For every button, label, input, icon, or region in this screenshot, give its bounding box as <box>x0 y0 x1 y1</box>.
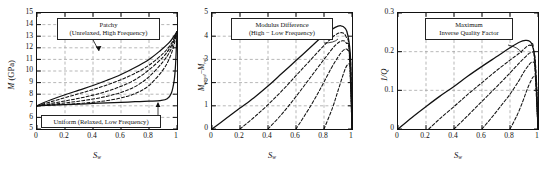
y-tick-label: 4 <box>188 31 208 40</box>
x-tick-label: 0.2 <box>413 131 437 140</box>
panel2-x-axis-label: Sw <box>252 150 292 160</box>
y-tick-label: 5 <box>13 123 33 132</box>
curve-2 <box>429 44 538 129</box>
modulus-difference-line2: (High − Low Frequency) <box>235 29 329 37</box>
panel1-x-axis-label: Sw <box>77 150 117 160</box>
y-tick-label: 0.2 <box>374 46 394 55</box>
y-tick-label: 0.3 <box>374 7 394 16</box>
y-tick-label: 10 <box>13 65 33 74</box>
y-tick-label: 0.1 <box>374 85 394 94</box>
curve-5 <box>37 32 177 106</box>
y-tick-label: 15 <box>13 7 33 16</box>
x-tick-label: 0.6 <box>469 131 493 140</box>
y-tick-label: 13 <box>13 31 33 40</box>
curve-6 <box>37 32 177 106</box>
x-tick-label: 0.8 <box>136 131 160 140</box>
curve-3 <box>37 32 177 106</box>
patchy-annotation-line2: (Unrelaxed, High Frequency) <box>61 29 156 37</box>
y-tick-label: 9 <box>13 77 33 86</box>
y-tick-label: 6 <box>13 112 33 121</box>
uniform-annotation: Uniform (Relaxed, Low Frequency) <box>41 115 161 128</box>
y-tick-label: 14 <box>13 19 33 28</box>
x-tick-label: 0.4 <box>255 131 279 140</box>
y-tick-label: 3 <box>188 54 208 63</box>
y-tick-label: 1 <box>188 100 208 109</box>
x-tick-label: 0.8 <box>497 131 521 140</box>
y-tick-label: 8 <box>13 89 33 98</box>
modulus-difference-annotation: Modulus Difference (High − Low Frequency… <box>231 18 333 40</box>
y-tick-label: 2 <box>188 77 208 86</box>
panel3-x-axis-label: Sw <box>438 150 478 160</box>
x-tick-label: 0.8 <box>311 131 335 140</box>
panel-inverse-quality: 1/Q Sw Maximum Inverse Quality Factor 00… <box>370 0 551 172</box>
x-tick-label: 0.4 <box>441 131 465 140</box>
max-inverse-quality-annotation: Maximum Inverse Quality Factor <box>425 18 513 40</box>
x-tick-label: 1 <box>525 131 549 140</box>
x-tick-label: 0.6 <box>283 131 307 140</box>
x-tick-label: 0.2 <box>52 131 76 140</box>
uniform-annotation-line1: Uniform (Relaxed, Low Frequency) <box>45 118 157 126</box>
y-tick-label: 12 <box>13 42 33 51</box>
max-iq-line1: Maximum <box>429 21 509 29</box>
y-tick-label: 5 <box>188 7 208 16</box>
curve-5 <box>510 76 538 129</box>
y-tick-label: 7 <box>13 100 33 109</box>
y-tick-label: 11 <box>13 54 33 63</box>
curve-2 <box>37 32 177 106</box>
panel-modulus: M (GPa) Sw Patchy (Unrelaxed, High Frequ… <box>0 0 185 172</box>
y-tick-label: 0 <box>374 123 394 132</box>
y-tick-label: 0 <box>188 123 208 132</box>
modulus-difference-line1: Modulus Difference <box>235 21 329 29</box>
patchy-annotation: Patchy (Unrelaxed, High Frequency) <box>57 18 160 40</box>
uniform-leader-arrowhead <box>156 102 161 107</box>
max-iq-line2: Inverse Quality Factor <box>429 29 509 37</box>
rock-physics-figure: M (GPa) Sw Patchy (Unrelaxed, High Frequ… <box>0 0 551 172</box>
curve-5 <box>324 64 352 129</box>
x-tick-label: 0.6 <box>108 131 132 140</box>
panel-modulus-difference: Munrel−Mrel Sw Modulus Difference (High … <box>185 0 370 172</box>
curve-4 <box>37 32 177 106</box>
x-tick-label: 0.2 <box>227 131 251 140</box>
curve-1 <box>37 32 177 106</box>
patchy-leader-arrowhead <box>96 46 102 51</box>
patchy-annotation-line1: Patchy <box>61 21 156 29</box>
x-tick-label: 0.4 <box>80 131 104 140</box>
x-tick-label: 1 <box>339 131 363 140</box>
